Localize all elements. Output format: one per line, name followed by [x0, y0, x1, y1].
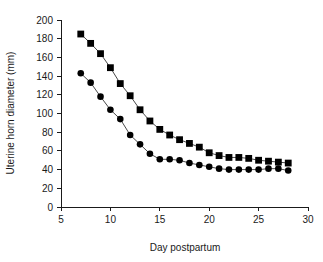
data-point-circle	[157, 156, 164, 163]
y-tick-label: 60	[42, 145, 54, 156]
data-point-square	[206, 149, 213, 156]
x-tick-label: 15	[154, 214, 166, 225]
data-point-square	[127, 92, 134, 99]
data-point-square	[235, 154, 242, 161]
data-point-square	[87, 40, 94, 47]
y-tick-label: 40	[42, 164, 54, 175]
data-point-square	[176, 136, 183, 143]
data-point-circle	[147, 150, 154, 157]
data-point-circle	[275, 165, 282, 172]
data-point-circle	[186, 160, 193, 167]
data-point-circle	[77, 70, 84, 77]
y-tick-label: 100	[36, 108, 53, 119]
data-point-square	[107, 64, 114, 71]
y-tick-label: 200	[36, 15, 53, 26]
data-point-square	[137, 106, 144, 113]
data-point-square	[147, 118, 154, 125]
uterine-horn-diameter-line-chart: 020406080100120140160180200 51015202530 …	[0, 0, 323, 262]
data-point-square	[196, 144, 203, 151]
y-tick-label: 20	[42, 183, 54, 194]
data-point-circle	[127, 132, 134, 139]
data-point-circle	[226, 166, 233, 173]
data-point-square	[77, 31, 84, 38]
data-point-circle	[176, 157, 183, 164]
series-line-circle	[81, 73, 288, 170]
data-point-circle	[236, 166, 243, 173]
data-point-circle	[166, 156, 173, 163]
y-tick-label: 180	[36, 33, 53, 44]
y-axis-tick-marks	[57, 20, 61, 207]
x-tick-label: 10	[105, 214, 117, 225]
x-tick-label: 5	[58, 214, 64, 225]
y-axis-tick-labels: 020406080100120140160180200	[36, 15, 53, 213]
x-axis-tick-labels: 51015202530	[58, 214, 314, 225]
data-point-square	[265, 158, 272, 165]
data-point-square	[275, 159, 282, 166]
series-markers	[77, 31, 291, 174]
x-tick-label: 25	[253, 214, 265, 225]
x-tick-label: 20	[204, 214, 216, 225]
series-polylines	[81, 34, 288, 171]
data-point-square	[117, 80, 124, 87]
x-tick-label: 30	[302, 214, 314, 225]
y-tick-label: 80	[42, 127, 54, 138]
data-point-square	[245, 155, 252, 162]
data-point-square	[216, 152, 223, 159]
data-point-circle	[285, 167, 292, 174]
data-point-circle	[196, 162, 203, 169]
data-point-circle	[245, 166, 252, 173]
data-point-circle	[137, 141, 144, 148]
data-point-circle	[216, 165, 223, 172]
x-axis-tick-marks	[61, 207, 308, 211]
y-tick-label: 120	[36, 89, 53, 100]
data-point-square	[186, 140, 193, 147]
data-point-square	[97, 50, 104, 57]
data-point-circle	[117, 116, 124, 123]
data-point-square	[156, 126, 163, 133]
data-point-square	[255, 157, 262, 164]
data-point-circle	[255, 166, 262, 173]
data-point-square	[226, 154, 233, 161]
data-point-square	[166, 132, 173, 139]
y-axis-title: Uterine horn diameter (mm)	[5, 52, 16, 175]
x-axis-title: Day postpartum	[150, 242, 221, 253]
data-point-square	[285, 160, 292, 167]
y-tick-label: 160	[36, 52, 53, 63]
series-line-square	[81, 34, 288, 163]
data-point-circle	[206, 163, 213, 170]
y-tick-label: 140	[36, 71, 53, 82]
data-point-circle	[87, 79, 94, 86]
chart-container: 020406080100120140160180200 51015202530 …	[0, 0, 323, 262]
data-point-circle	[265, 165, 272, 172]
y-tick-label: 0	[47, 202, 53, 213]
data-point-circle	[97, 93, 104, 100]
data-point-circle	[107, 106, 114, 113]
